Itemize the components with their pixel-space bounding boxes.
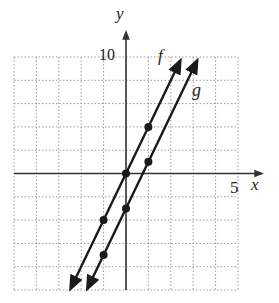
axes	[14, 32, 262, 290]
series-label-g: g	[192, 80, 201, 101]
series-label-f: f	[158, 46, 163, 66]
point-g	[122, 204, 130, 212]
point-g	[100, 251, 108, 259]
point-f	[144, 123, 152, 131]
function-lines	[71, 60, 198, 288]
x-tick-label-5: 5	[230, 178, 239, 198]
x-axis-label: x	[251, 175, 259, 195]
y-axis-label: y	[116, 4, 124, 24]
point-f	[122, 170, 130, 178]
point-f	[100, 216, 108, 224]
point-g	[144, 158, 152, 166]
y-tick-label-10: 10	[99, 46, 115, 64]
coordinate-plane	[0, 0, 279, 303]
